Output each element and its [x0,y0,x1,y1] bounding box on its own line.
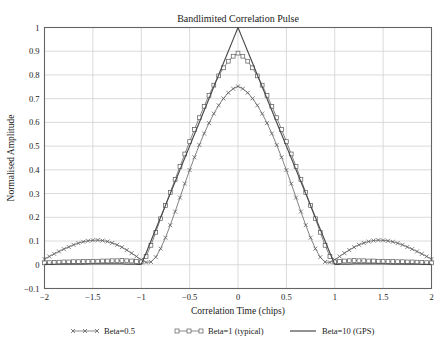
x-tick-label: −1 [137,292,146,302]
legend-item-1: Beta=1 (typical) [175,326,264,336]
x-tick-label: 2 [429,292,433,302]
y-axis-title: Normalised Amplitude [6,115,16,202]
y-tick-label: 0 [35,260,39,270]
x-tick-labels: −2−1.5−1−0.500.511.52 [40,292,434,302]
legend-label: Beta=0.5 [104,326,135,336]
y-tick-label: 0.6 [29,117,40,127]
x-tick-label: −0.5 [182,292,197,302]
y-tick-labels: −0.100.10.20.30.40.50.60.70.80.91 [24,23,40,294]
legend-label: Beta=1 (typical) [208,326,264,336]
y-tick-label: 0.5 [29,141,40,151]
y-tick-label: 0.1 [29,236,40,246]
y-tick-label: 1 [35,23,39,33]
grid-lines [45,28,432,289]
y-tick-label: 0.2 [29,212,40,222]
correlation-pulse-chart: −2−1.5−1−0.500.511.52 −0.100.10.20.30.40… [0,0,448,351]
x-tick-label: −2 [40,292,49,302]
x-tick-label: −1.5 [85,292,100,302]
y-tick-label: 0.8 [29,70,40,80]
y-tick-label: 0.7 [29,94,40,104]
x-tick-label: 0.5 [281,292,292,302]
legend-label: Beta=10 (GPS) [322,326,374,336]
y-tick-label: −0.1 [24,284,39,294]
legend-item-2: Beta=10 (GPS) [290,326,374,336]
legend: Beta=0.5Beta=1 (typical)Beta=10 (GPS) [71,326,374,336]
x-axis-title: Correlation Time (chips) [191,306,285,317]
x-tick-label: 1.5 [378,292,389,302]
x-tick-label: 0 [236,292,240,302]
y-tick-label: 0.9 [29,46,40,56]
y-tick-label: 0.3 [29,189,40,199]
x-tick-label: 1 [333,292,337,302]
legend-item-0: Beta=0.5 [71,326,135,336]
chart-figure: −2−1.5−1−0.500.511.52 −0.100.10.20.30.40… [0,0,448,351]
y-tick-label: 0.4 [29,165,40,175]
chart-title: Bandlimited Correlation Pulse [177,13,299,24]
